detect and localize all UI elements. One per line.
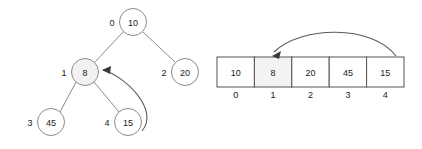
array-cell-index-3: 3 (345, 90, 350, 100)
tree-node-0[interactable]: 10 0 (109, 9, 146, 36)
array-cell-index-0: 0 (233, 90, 238, 100)
array-cell-value-4: 15 (380, 68, 390, 78)
tree-edge-8-15 (94, 82, 119, 112)
tree-edge-10-20 (143, 32, 175, 62)
tree-swap-arrowhead-icon (102, 66, 111, 74)
array-swap-arrow-path (274, 32, 396, 56)
array-cell-index-2: 2 (308, 90, 313, 100)
array-swap-arrow (272, 32, 396, 59)
array-cell-index-4: 4 (383, 90, 388, 100)
figure-canvas: 10 0 8 1 20 2 45 3 15 4 (0, 0, 422, 149)
tree-node-3[interactable]: 45 3 (27, 109, 64, 136)
tree-edge-10-8 (95, 32, 123, 62)
tree-node-index-1: 1 (61, 68, 66, 78)
array-cell-4[interactable]: 15 4 (367, 57, 404, 100)
tree-node-value-2: 20 (180, 68, 190, 78)
tree-node-value-3: 45 (46, 118, 56, 128)
array-cell-index-1: 1 (271, 90, 276, 100)
array-cell-0[interactable]: 10 0 (217, 57, 254, 100)
tree-node-index-4: 4 (104, 118, 109, 128)
tree-node-index-2: 2 (161, 68, 166, 78)
tree-node-value-4: 15 (123, 118, 133, 128)
array-cell-value-0: 10 (231, 68, 241, 78)
array-cells: 10 0 8 1 20 2 45 3 15 4 (217, 57, 404, 100)
array-cell-3[interactable]: 45 3 (329, 57, 366, 100)
array-cell-value-2: 20 (305, 68, 315, 78)
array-cell-value-3: 45 (343, 68, 353, 78)
array-cell-value-1: 8 (271, 68, 276, 78)
tree-node-1[interactable]: 8 1 (61, 59, 98, 86)
array-cell-2[interactable]: 20 2 (292, 57, 329, 100)
tree-node-index-0: 0 (109, 18, 114, 28)
tree-node-index-3: 3 (27, 118, 32, 128)
tree-edge-8-45 (60, 82, 76, 112)
tree-node-4[interactable]: 15 4 (104, 109, 141, 136)
tree-node-value-1: 8 (82, 68, 87, 78)
tree-node-value-0: 10 (128, 18, 138, 28)
array-cell-1[interactable]: 8 1 (254, 57, 291, 100)
diagram-svg: 10 0 8 1 20 2 45 3 15 4 (0, 0, 422, 149)
tree-node-2[interactable]: 20 2 (161, 59, 198, 86)
